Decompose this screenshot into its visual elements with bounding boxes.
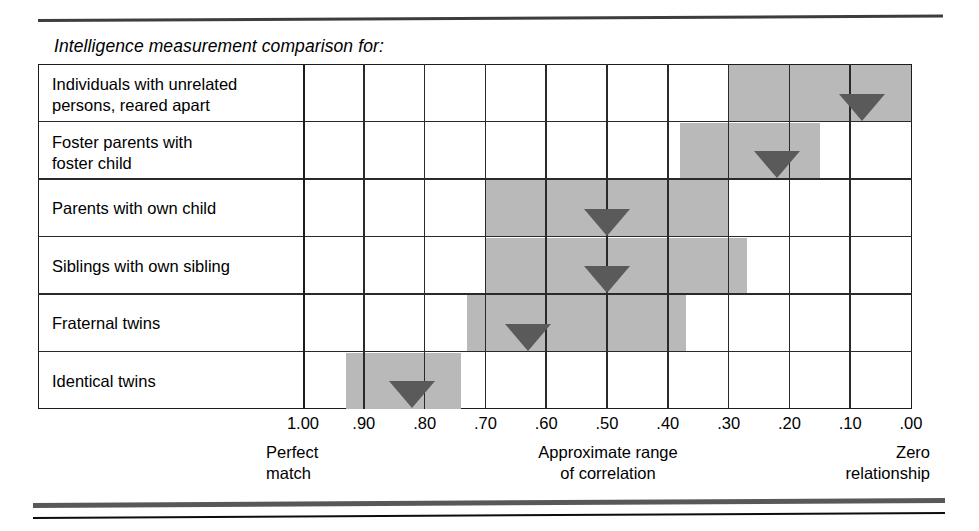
row-label-line1: Siblings with own sibling — [52, 256, 300, 277]
row-label-line1: Foster parents with — [52, 132, 300, 153]
chart-caption: Intelligence measurement comparison for: — [54, 36, 384, 57]
chart-grid-area: Individuals with unrelatedpersons, reare… — [38, 64, 912, 409]
bottom-rule-thick — [33, 498, 945, 508]
axis-note-approximate-range: Approximate range of correlation — [538, 442, 677, 485]
axis-note-center-line1: Approximate range — [538, 442, 677, 463]
gridline-horizontal — [38, 293, 912, 295]
row-label-line2: persons, reared apart — [52, 95, 300, 116]
gridline-horizontal — [38, 236, 912, 238]
gridline-horizontal — [38, 178, 912, 180]
gridline-horizontal — [38, 351, 912, 353]
row-label: Parents with own child — [52, 198, 300, 219]
value-marker — [754, 151, 800, 178]
row-label: Identical twins — [52, 371, 300, 392]
axis-note-center-line2: of correlation — [538, 463, 677, 484]
row-label: Fraternal twins — [52, 313, 300, 334]
value-marker — [584, 266, 630, 293]
axis-tick-label: .00 — [900, 414, 923, 433]
axis-tick-label: .70 — [474, 414, 497, 433]
row-label-line1: Fraternal twins — [52, 313, 300, 334]
axis-tick-label: .40 — [656, 414, 679, 433]
top-rule — [38, 15, 943, 22]
value-marker — [389, 381, 435, 408]
axis-tick-label: .80 — [413, 414, 436, 433]
row-label: Individuals with unrelatedpersons, reare… — [52, 74, 300, 116]
axis-note-right-line2: relationship — [846, 463, 930, 484]
axis-tick-label: .90 — [352, 414, 375, 433]
row-label: Foster parents withfoster child — [52, 132, 300, 174]
value-marker — [505, 324, 551, 351]
axis-note-perfect-match: Perfect match — [266, 442, 318, 485]
axis-tick-label: .60 — [535, 414, 558, 433]
row-label-line1: Identical twins — [52, 371, 300, 392]
axis-note-left-line2: match — [266, 463, 318, 484]
row-label-line1: Parents with own child — [52, 198, 300, 219]
axis-tick-label: .50 — [596, 414, 619, 433]
axis-tick-label: .20 — [778, 414, 801, 433]
axis-tick-label: 1.00 — [287, 414, 319, 433]
row-label: Siblings with own sibling — [52, 256, 300, 277]
value-marker — [584, 209, 630, 236]
row-label-line1: Individuals with unrelated — [52, 74, 300, 95]
axis-tick-label: .30 — [717, 414, 740, 433]
axis-tick-label: .10 — [839, 414, 862, 433]
bottom-rule-thin — [33, 512, 945, 519]
axis-note-right-line1: Zero — [846, 442, 930, 463]
gridline-horizontal — [38, 121, 912, 123]
row-label-line2: foster child — [52, 153, 300, 174]
range-bar — [467, 295, 686, 351]
label-column-separator — [303, 64, 305, 409]
axis-note-zero-relationship: Zero relationship — [846, 442, 930, 485]
axis-note-left-line1: Perfect — [266, 442, 318, 463]
chart-figure: Intelligence measurement comparison for:… — [0, 0, 979, 531]
value-marker — [839, 94, 885, 121]
